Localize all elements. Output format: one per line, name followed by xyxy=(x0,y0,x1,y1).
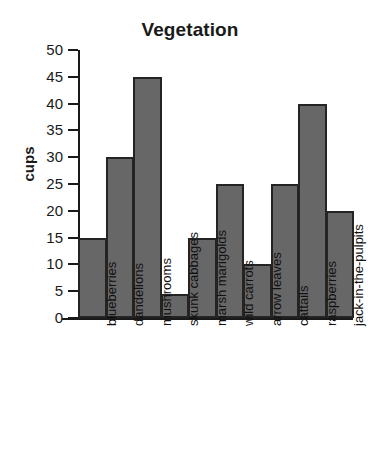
x-tick-label-cattails: cattails xyxy=(290,286,317,326)
x-tick-label-marsh-marigolds: marsh marigolds xyxy=(208,230,235,326)
y-tick-mark xyxy=(68,263,78,265)
y-tick-label: 25 xyxy=(46,174,63,193)
y-tick-label: 50 xyxy=(46,40,63,59)
y-tick-mark xyxy=(68,156,78,158)
y-tick-label: 20 xyxy=(46,201,63,220)
y-tick-mark xyxy=(68,129,78,131)
x-tick-label-raspberries: raspberries xyxy=(318,261,345,326)
y-tick-mark xyxy=(68,210,78,212)
x-tick-label-mushrooms: mushrooms xyxy=(153,258,180,326)
y-tick-mark xyxy=(68,317,78,319)
chart-title: Vegetation xyxy=(0,19,368,41)
y-tick-label: 35 xyxy=(46,120,63,139)
y-tick-label: 45 xyxy=(46,67,63,86)
y-tick-label: 0 xyxy=(55,308,63,327)
y-tick-mark xyxy=(68,237,78,239)
x-tick-label-arrow-leaves: arrow leaves xyxy=(263,252,290,326)
y-axis-label: cups xyxy=(20,152,37,182)
y-tick-label: 10 xyxy=(46,254,63,273)
y-tick-label: 40 xyxy=(46,94,63,113)
y-tick-mark xyxy=(68,76,78,78)
y-tick-label: 5 xyxy=(55,281,63,300)
y-tick-label: 15 xyxy=(46,228,63,247)
bar-chart: Vegetation cups 05101520253035404550 blu… xyxy=(0,0,368,473)
x-tick-label-jack-in-the-pulpits: jack-in-the-pulpits xyxy=(345,224,368,326)
x-tick-label-dandelions: dandelions xyxy=(125,263,152,326)
y-tick-mark xyxy=(68,183,78,185)
y-tick-label: 30 xyxy=(46,147,63,166)
x-tick-label-blueberries: blueberries xyxy=(98,262,125,326)
y-tick-mark xyxy=(68,103,78,105)
x-tick-label-skunk-cabbages: skunk cabbages xyxy=(180,232,207,326)
y-tick-mark xyxy=(68,49,78,51)
x-tick-label-wild-carrots: wild carrots xyxy=(235,260,262,326)
y-tick-mark xyxy=(68,290,78,292)
